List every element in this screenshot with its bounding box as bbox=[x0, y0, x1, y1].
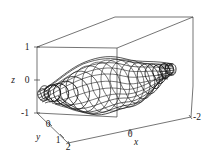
y-tick-label-2: 2 bbox=[66, 142, 71, 152]
z-axis-label: z bbox=[10, 75, 15, 85]
y-tick-label-1: 1 bbox=[56, 135, 61, 145]
z-tick-label-1: 1 bbox=[25, 42, 30, 52]
surface-plot-figure: 1 0 -1 z 0 1 2 y 0 -2 x bbox=[0, 0, 208, 161]
z-tick-label-neg1: -1 bbox=[21, 108, 29, 118]
x-axis-label: x bbox=[133, 137, 139, 147]
surface-mesh bbox=[38, 57, 176, 115]
mesh-longitudinal-lines bbox=[43, 57, 173, 115]
bounding-box bbox=[37, 17, 193, 143]
plot-canvas: 1 0 -1 z 0 1 2 y 0 -2 x bbox=[0, 0, 208, 161]
y-tick-label-0: 0 bbox=[46, 119, 51, 129]
x-tick-label-0: 0 bbox=[128, 129, 133, 139]
tick-marks bbox=[34, 47, 192, 146]
z-tick-label-0: 0 bbox=[25, 75, 30, 85]
x-tick-label-neg2: -2 bbox=[193, 112, 201, 122]
box-top-face bbox=[37, 17, 193, 48]
box-bottom-left-edge bbox=[37, 113, 68, 143]
y-axis-label: y bbox=[35, 132, 41, 142]
